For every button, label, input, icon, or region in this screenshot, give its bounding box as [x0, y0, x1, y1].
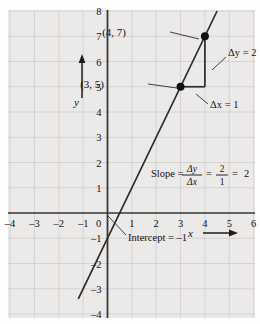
- x-tick--4: –4: [4, 218, 16, 229]
- y-tick-6: 6: [96, 57, 101, 68]
- x-tick-4: 4: [202, 218, 208, 229]
- y-tick-1: 1: [96, 183, 101, 194]
- x-tick-2: 2: [154, 218, 159, 229]
- data-point-4-7: [201, 32, 209, 40]
- slope-equals-1: =: [206, 168, 212, 179]
- slope-word: Slope =: [151, 168, 184, 179]
- y-tick--1: –1: [90, 233, 102, 244]
- y-tick-4: 4: [96, 107, 102, 118]
- y-tick-2: 2: [96, 158, 101, 169]
- slope-equals-2: =: [232, 168, 238, 179]
- point-a-label: (4, 7): [102, 26, 126, 39]
- y-tick--4: –4: [90, 309, 102, 320]
- x-tick--1: –1: [77, 218, 89, 229]
- delta-y-label: Δy = 2: [228, 47, 256, 58]
- slope-result: 2: [244, 168, 249, 179]
- x-tick-6: 6: [251, 218, 256, 229]
- y-tick-3: 3: [96, 132, 101, 143]
- slope-graph: y x –4–3–2–10123456 87654321–1–2–3–4 (4,…: [0, 0, 260, 324]
- x-tick-3: 3: [178, 218, 183, 229]
- x-tick-0: 0: [96, 218, 101, 229]
- delta-x-label: Δx = 1: [210, 99, 238, 110]
- figure-container: y x –4–3–2–10123456 87654321–1–2–3–4 (4,…: [0, 0, 260, 324]
- y-axis-label: y: [73, 96, 79, 108]
- slope-denominator-2: 1: [220, 177, 225, 187]
- point-b-label: (3, 5): [80, 78, 104, 91]
- y-tick-8: 8: [96, 6, 101, 17]
- x-tick--3: –3: [28, 218, 40, 229]
- y-tick-7: 7: [96, 31, 101, 42]
- x-tick-5: 5: [227, 218, 232, 229]
- slope-numerator-2: 2: [220, 164, 225, 174]
- data-point-3-5: [177, 83, 185, 91]
- x-axis-label: x: [187, 227, 193, 239]
- x-tick--2: –2: [53, 218, 65, 229]
- slope-denominator-1: Δx: [186, 177, 198, 187]
- slope-numerator-1: Δy: [186, 164, 198, 174]
- x-tick-1: 1: [129, 218, 134, 229]
- y-tick--3: –3: [90, 284, 102, 295]
- intercept-label: Intercept = –1: [128, 232, 187, 243]
